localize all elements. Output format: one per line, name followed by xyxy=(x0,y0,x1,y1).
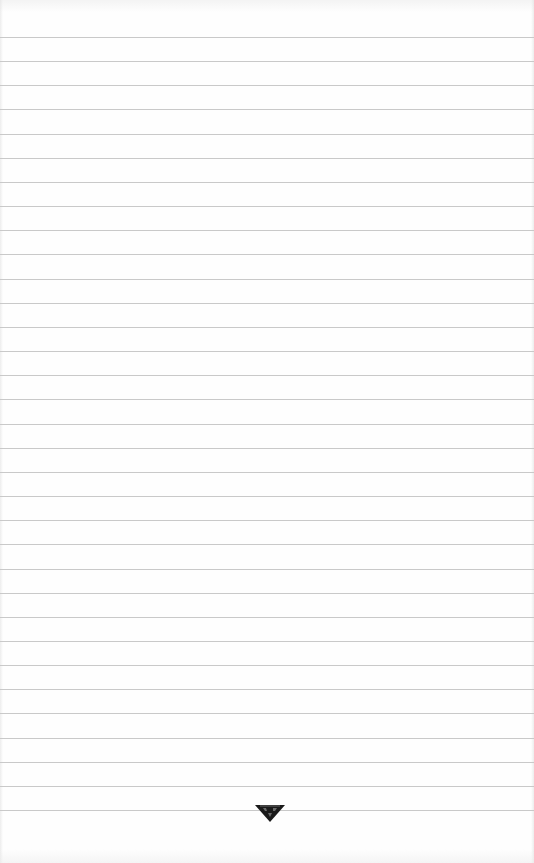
inverted-triangle-logo-icon xyxy=(255,804,285,822)
ruled-line xyxy=(0,544,534,545)
ruled-line xyxy=(0,472,534,473)
ruled-line xyxy=(0,303,534,304)
ruled-line xyxy=(0,375,534,376)
ruled-line xyxy=(0,762,534,763)
ruled-line xyxy=(0,448,534,449)
left-edge-shadow xyxy=(0,0,3,863)
ruled-line xyxy=(0,713,534,714)
ruled-line xyxy=(0,85,534,86)
ruled-line xyxy=(0,689,534,690)
ruled-line xyxy=(0,206,534,207)
ruled-line xyxy=(0,351,534,352)
ruled-line xyxy=(0,61,534,62)
notepad-page xyxy=(0,0,534,863)
ruled-line xyxy=(0,424,534,425)
ruled-line xyxy=(0,593,534,594)
bottom-edge-shadow xyxy=(0,849,534,863)
ruled-line xyxy=(0,37,534,38)
ruled-line xyxy=(0,109,534,110)
ruled-line xyxy=(0,279,534,280)
ruled-line xyxy=(0,327,534,328)
ruled-line xyxy=(0,786,534,787)
ruled-line xyxy=(0,665,534,666)
ruled-line xyxy=(0,496,534,497)
ruled-line xyxy=(0,399,534,400)
ruled-line xyxy=(0,158,534,159)
ruled-line xyxy=(0,738,534,739)
ruled-line xyxy=(0,182,534,183)
ruled-line xyxy=(0,617,534,618)
ruled-line xyxy=(0,254,534,255)
ruled-line xyxy=(0,134,534,135)
ruled-line xyxy=(0,230,534,231)
ruled-line xyxy=(0,569,534,570)
ruled-line xyxy=(0,520,534,521)
top-edge-shadow xyxy=(0,0,534,12)
ruled-line xyxy=(0,641,534,642)
